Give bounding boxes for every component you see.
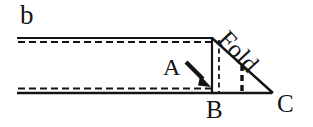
point-label-c: C xyxy=(277,91,294,116)
fold-diagram: b A B C Fold xyxy=(0,0,313,127)
diagram-canvas xyxy=(0,0,313,127)
point-label-b: B xyxy=(206,97,223,122)
panel-label-b: b xyxy=(20,2,34,29)
point-label-a: A xyxy=(163,55,180,79)
pointer-arrow xyxy=(186,62,211,87)
